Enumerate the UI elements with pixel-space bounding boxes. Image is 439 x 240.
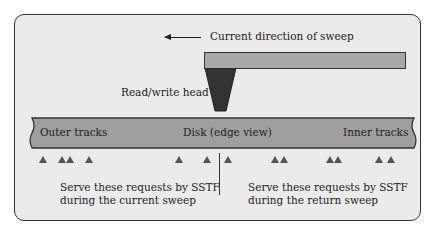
direction-label: Current direction of sweep xyxy=(210,30,354,42)
request-triangle-icon xyxy=(175,156,183,163)
request-triangle-icon xyxy=(224,156,232,163)
request-triangle-icon xyxy=(334,156,342,163)
request-triangle-icon xyxy=(280,156,288,163)
read-write-head-icon xyxy=(204,68,238,113)
disk-label: Disk (edge view) xyxy=(183,126,272,138)
head-label: Read/write head xyxy=(121,86,209,98)
request-triangle-icon xyxy=(39,156,47,163)
head-arm xyxy=(204,52,406,69)
inner-tracks-label: Inner tracks xyxy=(343,126,408,138)
left-caption-line1: Serve these requests by SSTF xyxy=(60,181,220,193)
request-triangle-icon xyxy=(271,156,279,163)
left-caption-line2: during the current sweep xyxy=(60,194,196,206)
direction-arrow-icon xyxy=(165,37,201,38)
request-triangle-icon xyxy=(387,156,395,163)
request-triangle-icon xyxy=(375,156,383,163)
right-caption-line1: Serve these requests by SSTF xyxy=(248,181,408,193)
request-triangle-icon xyxy=(326,156,334,163)
request-triangle-icon xyxy=(85,156,93,163)
right-caption-line2: during the return sweep xyxy=(248,194,378,206)
request-triangle-icon xyxy=(58,156,66,163)
request-triangle-icon xyxy=(203,156,211,163)
outer-tracks-label: Outer tracks xyxy=(40,126,107,138)
request-triangle-icon xyxy=(66,156,74,163)
